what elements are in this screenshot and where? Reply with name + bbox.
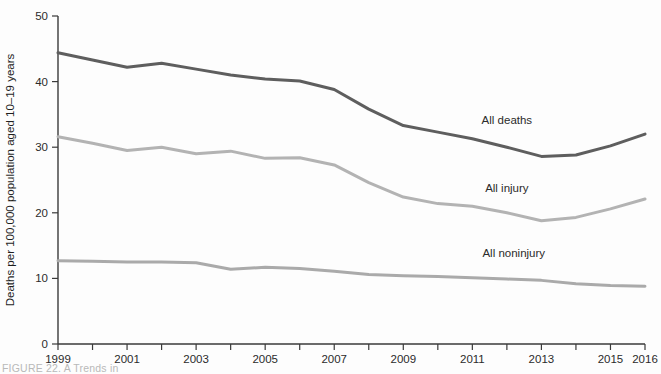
x-tick-label: 2013 <box>529 353 555 365</box>
figure-container: 0102030405019992001200320052007200920112… <box>0 0 661 374</box>
series-annotation-all-deaths: All deaths <box>482 114 533 126</box>
y-axis-title: Deaths per 100,000 population aged 10–19… <box>4 53 16 306</box>
x-tick-label: 2007 <box>321 353 347 365</box>
figure-caption: FIGURE 22. A Trends in <box>2 362 118 374</box>
y-tick-label: 50 <box>35 10 48 22</box>
y-tick-label: 10 <box>35 272 48 284</box>
y-tick-label: 40 <box>35 76 48 88</box>
series-annotation-all-noninjury: All noninjury <box>482 247 545 259</box>
x-tick-label: 2005 <box>252 353 278 365</box>
series-annotation-all-injury: All injury <box>485 182 529 194</box>
y-tick-label: 30 <box>35 141 48 153</box>
line-chart: 0102030405019992001200320052007200920112… <box>0 0 661 374</box>
x-tick-label: 2003 <box>183 353 209 365</box>
x-tick-label: 2011 <box>460 353 485 365</box>
x-tick-label: 2015 <box>598 353 624 365</box>
series-line-all-deaths <box>58 53 645 157</box>
x-tick-label: 2009 <box>390 353 416 365</box>
y-tick-label: 20 <box>35 207 48 219</box>
y-tick-label: 0 <box>42 338 48 350</box>
series-line-all-injury <box>58 137 645 221</box>
x-tick-label: 2016 <box>632 353 658 365</box>
series-line-all-noninjury <box>58 261 645 287</box>
